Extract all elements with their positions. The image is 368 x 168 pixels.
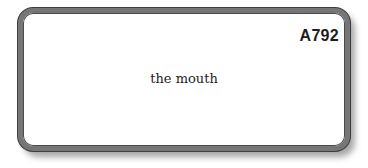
card-text: the mouth: [23, 71, 345, 86]
flash-card[interactable]: A792 the mouth: [18, 8, 350, 151]
card-code: A792: [300, 27, 339, 45]
